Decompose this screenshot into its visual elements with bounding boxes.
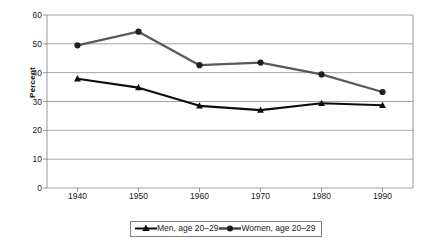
y-axis-tick-label: 30 [18, 97, 42, 107]
legend-label-men: Men, age 20–29 [157, 223, 219, 234]
y-axis-tick-label: 10 [18, 154, 42, 164]
data-point [196, 62, 202, 68]
data-point [379, 89, 385, 95]
x-axis-tick-label: 1960 [180, 191, 220, 201]
line-chart: Percent 0102030405060 Men, age 20–29 Wom… [0, 0, 423, 250]
y-axis-tick-label: 50 [18, 39, 42, 49]
series-line-men [78, 79, 383, 110]
x-axis-tick-label: 1970 [241, 191, 281, 201]
x-axis-tick-label: 1990 [363, 191, 403, 201]
series-line-women [78, 32, 383, 92]
y-axis-tick-label: 40 [18, 68, 42, 78]
legend-key-men-triangle-icon [135, 223, 157, 234]
data-point [257, 59, 263, 65]
y-axis-tick-labels: 0102030405060 [18, 0, 42, 250]
x-axis-tick-label: 1980 [302, 191, 342, 201]
y-axis-tick-label: 20 [18, 125, 42, 135]
y-axis-tick-label: 60 [18, 10, 42, 20]
y-axis-tick-label: 0 [18, 183, 42, 193]
data-point [318, 71, 324, 77]
data-point [74, 42, 80, 48]
legend-entry-women[interactable]: Women, age 20–29 [219, 223, 316, 234]
legend-entry-men[interactable]: Men, age 20–29 [135, 223, 219, 234]
x-axis-tick-label: 1940 [58, 191, 98, 201]
plot-area [0, 0, 423, 250]
legend-key-women-circle-icon [219, 223, 241, 234]
x-axis-tick-label: 1950 [119, 191, 159, 201]
data-point [135, 29, 141, 35]
legend-label-women: Women, age 20–29 [241, 223, 316, 234]
chart-legend: Men, age 20–29 Women, age 20–29 [130, 221, 322, 237]
